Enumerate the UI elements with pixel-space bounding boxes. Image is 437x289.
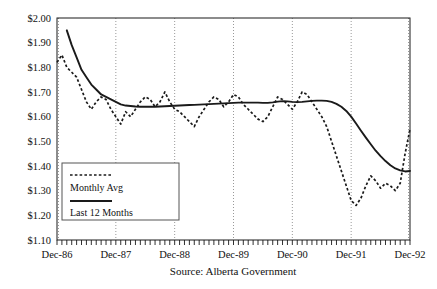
x-axis-tick-label: Dec-91	[336, 249, 367, 260]
x-axis-tick-label: Dec-86	[42, 249, 73, 260]
y-axis-tick-label: $1.20	[27, 210, 51, 221]
y-axis-tick-label: $1.60	[27, 111, 51, 122]
y-axis-tick-label: $1.30	[27, 185, 51, 196]
y-axis-tick-label: $1.80	[27, 62, 51, 73]
y-axis-tick-label: $1.70	[27, 87, 51, 98]
y-axis-tick-label: $1.10	[27, 235, 51, 246]
x-axis-tick-label: Dec-92	[395, 249, 426, 260]
y-axis-tick-label: $2.00	[27, 13, 51, 24]
chart-legend: Monthly Avg Last 12 Months	[62, 163, 179, 220]
legend-label-last-12-months: Last 12 Months	[70, 207, 133, 218]
x-axis-tick-label: Dec-87	[100, 249, 131, 260]
y-axis-tick-label: $1.40	[27, 161, 51, 172]
x-axis-tick-label: Dec-89	[218, 249, 249, 260]
legend-label-monthly-avg: Monthly Avg	[70, 182, 123, 193]
x-axis-tick-label: Dec-90	[277, 249, 308, 260]
price-chart: $2.00$1.90$1.80$1.70$1.60$1.50$1.40$1.30…	[0, 0, 437, 289]
source-caption: Source: Alberta Government	[170, 265, 296, 277]
y-axis-tick-label: $1.50	[27, 136, 51, 147]
chart-canvas: $2.00$1.90$1.80$1.70$1.60$1.50$1.40$1.30…	[0, 0, 437, 289]
y-axis-tick-label: $1.90	[27, 37, 51, 48]
x-axis-tick-label: Dec-88	[159, 249, 190, 260]
